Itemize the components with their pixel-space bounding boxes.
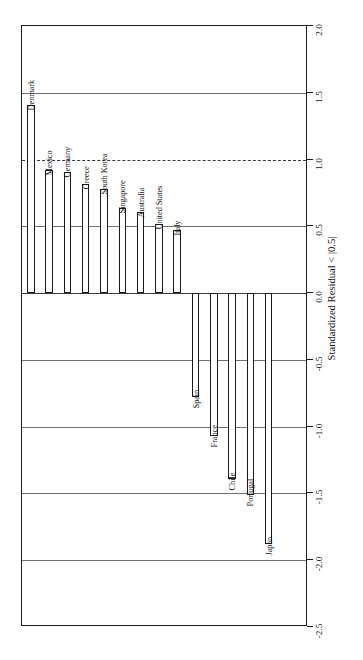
bar-label: Italy — [174, 221, 182, 236]
bar-label: Australia — [137, 187, 145, 217]
bar — [192, 293, 200, 397]
axis-tick-label: 0.0 — [314, 291, 324, 302]
bar-label: Greece — [82, 166, 90, 189]
axis-tick-label: 1.5 — [314, 91, 324, 102]
bar — [27, 105, 35, 293]
axis-tick — [307, 359, 313, 360]
bar — [45, 170, 53, 293]
axis-tick-label: -1.5 — [314, 490, 324, 505]
axis-title: Standardized Residual < |0.5| — [326, 237, 337, 361]
axis-tick-label: 0.5 — [314, 225, 324, 236]
bar-label: Denmark — [27, 80, 35, 110]
bar — [265, 293, 273, 544]
bar — [119, 208, 127, 293]
axis-tick-label: -0.5 — [314, 357, 324, 372]
axis-tick-label: 1.0 — [314, 158, 324, 169]
bar — [247, 293, 255, 495]
axis-tick-label: 2.0 — [314, 24, 324, 35]
bar-label: Portugal — [247, 479, 255, 507]
bar-label: South Korea — [101, 153, 109, 194]
axis-tick-label: -2.5 — [314, 624, 324, 639]
plot-area: DenmarkMexicoGermanyGreeceSouth KoreaSin… — [21, 25, 307, 626]
axis-tick — [307, 292, 313, 293]
axis-tick — [307, 25, 313, 26]
axis-tick — [307, 559, 313, 560]
axis-tick — [307, 626, 313, 627]
bars-layer: DenmarkMexicoGermanyGreeceSouth KoreaSin… — [22, 26, 306, 625]
bar — [137, 212, 145, 293]
bar-label: Germany — [64, 147, 72, 177]
bar — [82, 184, 90, 294]
bar — [210, 293, 218, 436]
axis-tick-label: -1.0 — [314, 423, 324, 438]
bar-label: United States — [155, 185, 163, 229]
bar — [155, 224, 163, 293]
axis-tick-label: -2.0 — [314, 557, 324, 572]
axis-tick — [307, 159, 313, 160]
axis-tick — [307, 92, 313, 93]
value-axis: 2.01.51.00.50.0-0.5-1.0-1.5-2.0-2.5 — [307, 25, 317, 626]
bar — [100, 189, 108, 293]
axis-tick — [307, 225, 313, 226]
bar-label: Japan — [265, 537, 273, 556]
chart-root: DenmarkMexicoGermanyGreeceSouth KoreaSin… — [0, 0, 363, 660]
axis-tick — [307, 426, 313, 427]
bar-label: Mexico — [46, 151, 54, 176]
bar-label: France — [210, 425, 218, 447]
bar — [173, 230, 181, 293]
bar-label: Spain — [192, 390, 200, 409]
bar-label: Singapore — [119, 180, 127, 213]
bar-label: Chile — [229, 473, 237, 491]
bar — [228, 293, 236, 479]
bar — [64, 172, 72, 294]
axis-tick — [307, 492, 313, 493]
